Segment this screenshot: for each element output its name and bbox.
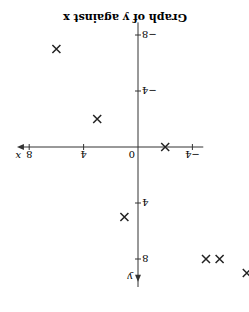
y-axis-label: y xyxy=(127,272,134,283)
data-point-marker xyxy=(243,269,249,277)
y-tick-label: 4 xyxy=(142,197,148,208)
y-tick-label: −4 xyxy=(142,85,157,96)
x-tick-label: 8 xyxy=(26,149,32,160)
chart-title: Graph of y against x xyxy=(63,11,187,24)
x-axis-arrow xyxy=(17,144,24,150)
chart-container: xy0−448−8−448Graph of y against x xyxy=(0,0,249,312)
data-point-marker xyxy=(202,255,210,263)
y-axis-arrow xyxy=(135,275,141,282)
data-point-marker xyxy=(216,255,224,263)
data-point-marker xyxy=(93,115,101,123)
x-tick-label: −4 xyxy=(185,149,200,160)
scatter-chart: xy0−448−8−448Graph of y against x xyxy=(0,0,249,312)
data-point-marker xyxy=(52,45,60,53)
data-point-marker xyxy=(120,213,128,221)
y-tick-label: −8 xyxy=(142,29,157,40)
origin-label: 0 xyxy=(129,149,135,160)
y-tick-label: 8 xyxy=(142,253,148,264)
x-tick-label: 4 xyxy=(80,149,86,160)
x-axis-label: x xyxy=(15,151,21,162)
